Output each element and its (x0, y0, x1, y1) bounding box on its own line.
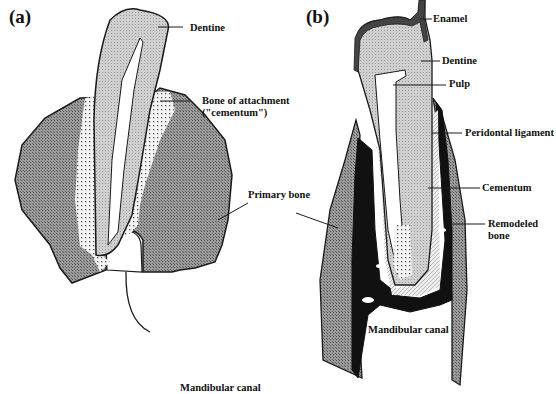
label-remodeled-bone-b-2: bone (488, 230, 510, 242)
label-periodontal-ligament-b: Peridontal ligament (465, 127, 554, 139)
label-cementum-quoted-a: ("cementum") (202, 107, 267, 119)
label-enamel-b: Enamel (433, 13, 467, 25)
label-bone-of-attachment-a: Bone of attachment (202, 95, 290, 107)
label-remodeled-bone-b: Remodeled (488, 218, 538, 230)
panel-a-drawing (15, 9, 248, 332)
label-dentine-a: Dentine (190, 22, 225, 34)
label-pulp-b: Pulp (449, 78, 470, 90)
label-mandibular-canal-b: Mandibular canal (368, 324, 449, 336)
panel-b-label: (b) (306, 6, 329, 28)
panel-a-label: (a) (9, 6, 31, 28)
label-dentine-b: Dentine (442, 55, 477, 67)
label-primary-bone: Primary bone (248, 189, 310, 201)
label-mandibular-canal-a: Mandibular canal (180, 382, 261, 394)
label-cementum-b: Cementum (482, 182, 532, 194)
